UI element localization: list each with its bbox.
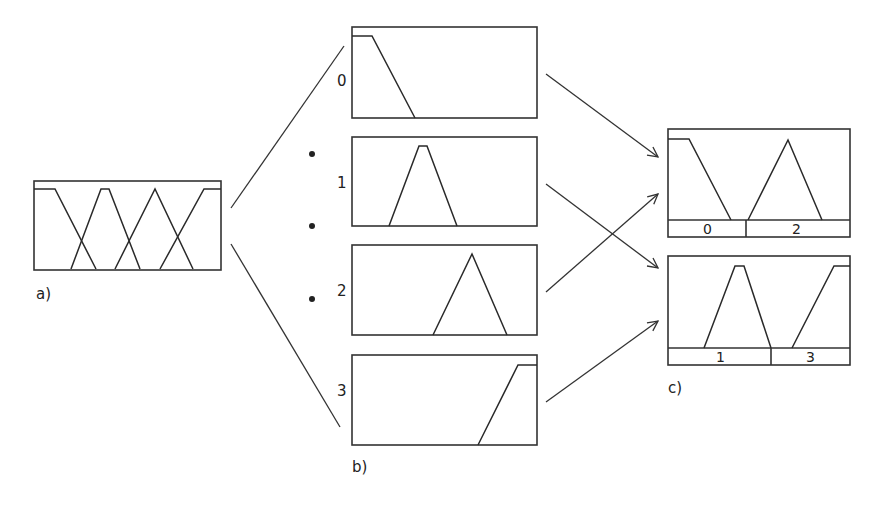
mf-b-3 xyxy=(478,365,537,445)
mf-c-bottom-1 xyxy=(704,266,771,348)
panel-b-box-2 xyxy=(352,245,537,335)
panel-b-label: b) xyxy=(352,458,367,476)
panel-c-top-segment-0: 0 xyxy=(703,221,712,237)
panel-b-box-1 xyxy=(352,137,537,226)
panel-b-index-3: 3 xyxy=(337,382,347,400)
fan-line-bottom xyxy=(231,244,340,427)
fan-line-top xyxy=(231,46,344,208)
mf-3 xyxy=(160,189,221,269)
mf-b-2 xyxy=(433,254,507,335)
panel-b-box-0 xyxy=(352,27,537,118)
ellipsis-dot xyxy=(309,296,315,302)
panel-c-top-segment-1: 2 xyxy=(792,221,801,237)
arrow-0-to-top xyxy=(546,74,658,157)
panel-c: 0 2 1 3 c) xyxy=(668,129,850,397)
ellipsis-dot xyxy=(309,223,315,229)
arrow-3-to-bottom xyxy=(546,321,658,402)
arrow-1-to-bottom xyxy=(546,184,658,268)
panel-c-label: c) xyxy=(668,379,682,397)
panel-a: a) xyxy=(34,181,221,303)
mf-c-top-2 xyxy=(748,140,822,220)
fuzzy-membership-diagram: a) 0 1 2 3 b) xyxy=(0,0,883,508)
mf-b-0 xyxy=(352,36,415,118)
panel-c-bottom-segment-0: 1 xyxy=(716,349,725,365)
mf-c-bottom-3 xyxy=(792,266,850,348)
panel-b-index-0: 0 xyxy=(337,72,347,90)
panel-b-index-2: 2 xyxy=(337,282,347,300)
panel-b-index-1: 1 xyxy=(337,174,347,192)
mf-b-1 xyxy=(389,146,457,226)
panel-b-box-3 xyxy=(352,355,537,445)
panel-c-bottom-segment-1: 3 xyxy=(806,349,815,365)
arrow-2-to-top xyxy=(546,194,658,292)
ellipsis-dot xyxy=(309,151,315,157)
panel-a-box xyxy=(34,181,221,270)
mf-c-top-0 xyxy=(668,139,731,220)
panel-b: 0 1 2 3 b) xyxy=(337,27,537,476)
mf-1 xyxy=(71,189,140,269)
panel-a-label: a) xyxy=(36,285,51,303)
